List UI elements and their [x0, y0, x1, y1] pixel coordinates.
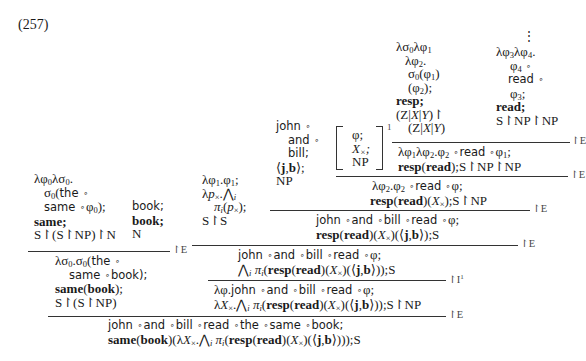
leaf-book: book; book; N [132, 200, 164, 241]
leaf-pi: λφ1.φ1; λp×.⋀i πi(p×); S↾S [202, 173, 246, 227]
leaf-read: ⋮ λφ3λφ4. φ4 ∘ read ∘ φ3; read; S↾NP↾NP [496, 40, 558, 127]
step-resp-read-x: λφ2.φ2 ∘read ∘φ; resp(read)(X×);S↾NP [370, 179, 487, 207]
leaf-jb: john ∘ and ∘ bill; ⟨j,b⟩; NP [276, 120, 320, 188]
step-pi: john ∘and ∘bill ∘read ∘φ; ⋀i πi(resp(rea… [238, 248, 395, 276]
conclusion: john ∘and ∘bill ∘read ∘the ∘same ∘book; … [108, 319, 361, 346]
step-resp-read: λφ1λφ2.φ2 ∘read ∘φ1; resp(read);S↾NP↾NP [398, 145, 521, 173]
rule-label: ↾E [520, 237, 535, 249]
inference-rule-line [28, 251, 170, 252]
leaf-same: λφ0λσ0. σ0(the ∘ same ∘φ0); same; S↾(S↾N… [34, 172, 116, 242]
example-number: (257) [18, 18, 48, 32]
rule-label: ↾E [571, 134, 586, 146]
step-abstract: λφ.john ∘and ∘bill ∘read ∘φ; λX×.⋀i πi(r… [214, 283, 421, 311]
right-bracket [376, 126, 383, 170]
rule-label: ↾E [448, 308, 463, 320]
leaf-resp: λσ0λφ1 λφ2. σ0(φ1) (φ2); resp; (Z|X|Y)↾ … [396, 40, 445, 135]
inference-rule-line [336, 176, 568, 177]
ellipsis-dots: ⋮ [496, 32, 558, 40]
inference-rule-line [270, 210, 530, 211]
rule-label: ↾E [570, 168, 585, 180]
inference-rule-line [392, 142, 570, 143]
step-same-book: λσ0.σ0(the ∘ same ∘book); same(book); S↾… [55, 254, 147, 309]
rule-label: ↾I1 [448, 273, 464, 285]
rule-label: ↾E [532, 202, 547, 214]
inference-rule-line [192, 245, 518, 246]
step-jb-read: john ∘and ∘bill ∘read ∘φ; resp(read)(X×)… [316, 213, 459, 241]
inference-rule-line [208, 280, 446, 281]
rule-label: ↾E [172, 243, 187, 255]
hypothesis: φ; X×; NP [342, 128, 370, 169]
hypothesis-index: 1 [387, 122, 392, 132]
left-bracket [336, 126, 343, 170]
inference-rule-line [48, 316, 446, 317]
